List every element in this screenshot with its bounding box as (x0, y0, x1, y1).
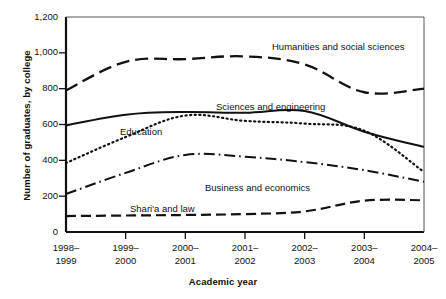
x-tick-label: 1998–1999 (37, 242, 95, 267)
series-label: Humanities and social sciences (272, 41, 405, 52)
x-tick-label-line-1: 2004– (395, 242, 446, 255)
series-line (66, 115, 424, 172)
x-tick-label-line-2: 2003 (276, 255, 334, 268)
x-tick-label: 2001–2002 (216, 242, 274, 267)
series-label: Education (120, 126, 162, 137)
x-tick-label: 1999–2000 (97, 242, 155, 267)
x-tick-label-line-2: 2004 (335, 255, 393, 268)
x-tick-label: 2002–2003 (276, 242, 334, 267)
series-label: Sciences and engineering (216, 101, 325, 112)
x-tick-label-line-2: 2005 (395, 255, 446, 268)
x-tick-label: 2003–2004 (335, 242, 393, 267)
y-tick-label: 1,000 (14, 46, 58, 57)
x-tick-label-line-1: 2003– (335, 242, 393, 255)
line-chart: Number of graduates, by college Academic… (0, 0, 446, 299)
series-label: Business and economics (205, 182, 310, 193)
x-tick-label: 2000–2001 (156, 242, 214, 267)
y-tick-label: 1,200 (14, 11, 58, 22)
y-tick-label: 200 (14, 190, 58, 201)
y-tick-label: 0 (14, 226, 58, 237)
x-tick-label-line-1: 2001– (216, 242, 274, 255)
y-tick-label: 800 (14, 82, 58, 93)
x-tick-label-line-1: 2002– (276, 242, 334, 255)
x-tick-label-line-2: 2000 (97, 255, 155, 268)
x-tick-label-line-1: 1998– (37, 242, 95, 255)
x-tick-label: 2004–2005 (395, 242, 446, 267)
series-line (66, 200, 424, 216)
y-tick-label: 400 (14, 154, 58, 165)
series-line (66, 56, 424, 93)
x-axis-title: Academic year (0, 276, 446, 287)
series-label: Shari'a and law (130, 203, 195, 214)
x-tick-label-line-1: 1999– (97, 242, 155, 255)
x-tick-label-line-2: 2001 (156, 255, 214, 268)
x-tick-label-line-1: 2000– (156, 242, 214, 255)
x-tick-label-line-2: 2002 (216, 255, 274, 268)
y-tick-label: 600 (14, 118, 58, 129)
x-tick-label-line-2: 1999 (37, 255, 95, 268)
